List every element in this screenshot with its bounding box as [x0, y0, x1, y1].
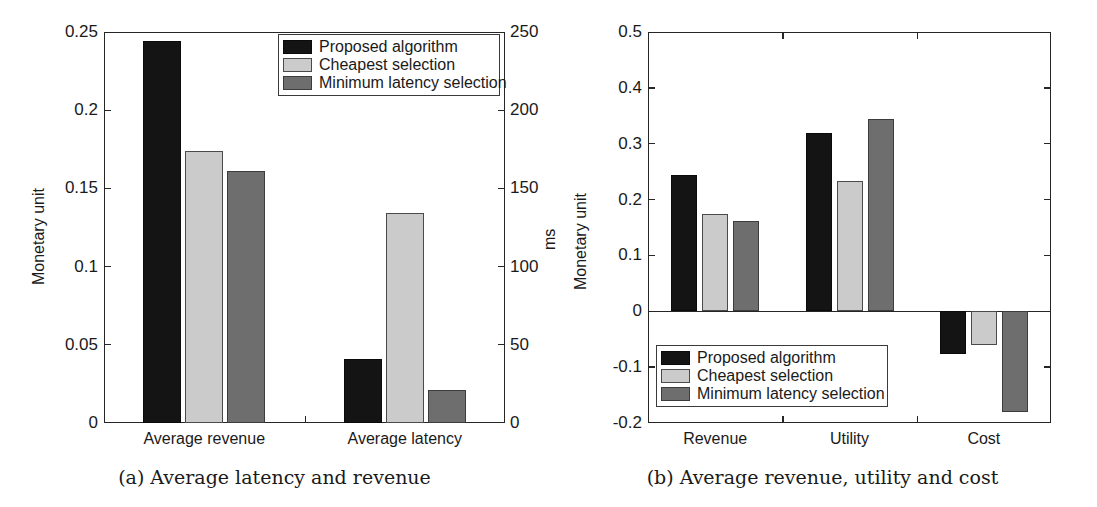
- panel-a: Monetary unit ms 00.050.10.150.20.25 050…: [0, 0, 549, 507]
- x-tick-label-1: Average latency: [305, 431, 505, 447]
- y-tick-mark-l-1: [648, 366, 655, 367]
- legend-row: Minimum latency selection: [283, 74, 494, 92]
- panel-b: Monetary unit -0.2-0.100.10.20.30.40.5 R…: [548, 0, 1097, 507]
- bar-1-1: [386, 213, 424, 423]
- bar-0-2: [733, 221, 759, 311]
- y-tick-mark-r-3: [1044, 255, 1051, 256]
- y2-tick-mark-1: [498, 344, 505, 345]
- y-tick-label-1: 0.05: [42, 336, 98, 353]
- legend-swatch-1: [661, 369, 690, 383]
- y-tick-mark-l-6: [648, 87, 655, 88]
- y-tick-mark-l-4: [648, 199, 655, 200]
- legend-row: Cheapest selection: [661, 367, 882, 385]
- x-tick-mark-1: [305, 416, 306, 423]
- legend-label-2: Minimum latency selection: [697, 386, 885, 402]
- bar-0-0: [671, 175, 697, 311]
- y-tick-label-0: -0.2: [586, 414, 642, 431]
- x-tick-mark-b-2: [917, 416, 918, 423]
- bar-2-1: [971, 311, 997, 345]
- x-tick-label-0: Average revenue: [104, 431, 304, 447]
- bar-0-0: [143, 41, 181, 423]
- y-tick-mark-2: [104, 266, 111, 267]
- legend-label-2: Minimum latency selection: [319, 75, 507, 91]
- bar-2-0: [940, 311, 966, 354]
- y-tick-mark-r-1: [1044, 366, 1051, 367]
- y2-tick-mark-3: [498, 188, 505, 189]
- legend-label-0: Proposed algorithm: [319, 39, 458, 55]
- y-tick-label-3: 0.1: [586, 246, 642, 263]
- bar-0-1: [702, 214, 728, 311]
- bar-1-0: [806, 133, 832, 311]
- legend-b: Proposed algorithmCheapest selectionMini…: [656, 345, 888, 407]
- y-tick-mark-r-5: [1044, 143, 1051, 144]
- bar-1-2: [868, 119, 894, 312]
- y-tick-mark-l-3: [648, 255, 655, 256]
- y-tick-label-6: 0.4: [586, 79, 642, 96]
- y-tick-mark-4: [104, 110, 111, 111]
- bar-2-2: [1002, 311, 1028, 412]
- legend-a: Proposed algorithmCheapest selectionMini…: [278, 34, 500, 96]
- y-tick-label-4: 0.2: [586, 191, 642, 208]
- legend-label-1: Cheapest selection: [697, 368, 833, 384]
- y2-tick-mark-4: [498, 110, 505, 111]
- legend-row: Proposed algorithm: [283, 38, 494, 56]
- legend-swatch-1: [283, 58, 312, 72]
- y-tick-label-3: 0.15: [42, 179, 98, 196]
- caption-a: (a) Average latency and revenue: [0, 466, 549, 488]
- legend-swatch-2: [661, 387, 690, 401]
- x-tick-mark-t-1: [782, 32, 783, 39]
- legend-swatch-2: [283, 76, 312, 90]
- y-tick-label-2: 0.1: [42, 258, 98, 275]
- y-tick-mark-l-5: [648, 143, 655, 144]
- y-tick-label-4: 0.2: [42, 101, 98, 118]
- x-tick-label-2: Cost: [894, 431, 1074, 447]
- bar-1-1: [837, 181, 863, 312]
- figure-container: Monetary unit ms 00.050.10.150.20.25 050…: [0, 0, 1097, 507]
- legend-row: Minimum latency selection: [661, 385, 882, 403]
- y-tick-label-0: 0: [42, 414, 98, 431]
- legend-row: Cheapest selection: [283, 56, 494, 74]
- legend-row: Proposed algorithm: [661, 349, 882, 367]
- y-tick-mark-1: [104, 344, 111, 345]
- y-tick-mark-3: [104, 188, 111, 189]
- bar-0-1: [185, 151, 223, 423]
- y-tick-mark-r-6: [1044, 87, 1051, 88]
- y-tick-mark-r-4: [1044, 199, 1051, 200]
- y2-tick-mark-2: [498, 266, 505, 267]
- y-axis-title-b: Monetary unit: [572, 193, 590, 290]
- y-tick-label-1: -0.1: [586, 358, 642, 375]
- y-tick-label-5: 0.3: [586, 135, 642, 152]
- bar-1-2: [428, 390, 466, 423]
- legend-label-0: Proposed algorithm: [697, 350, 836, 366]
- x-tick-mark-t-2: [917, 32, 918, 39]
- bar-0-2: [227, 171, 265, 423]
- bar-1-0: [344, 359, 382, 423]
- legend-swatch-0: [283, 40, 312, 54]
- y-tick-label-7: 0.5: [586, 23, 642, 40]
- legend-swatch-0: [661, 351, 690, 365]
- caption-b: (b) Average revenue, utility and cost: [548, 466, 1097, 488]
- y-tick-label-2: 0: [586, 302, 642, 319]
- legend-label-1: Cheapest selection: [319, 57, 455, 73]
- x-tick-mark-b-1: [782, 416, 783, 423]
- y-tick-label-5: 0.25: [42, 23, 98, 40]
